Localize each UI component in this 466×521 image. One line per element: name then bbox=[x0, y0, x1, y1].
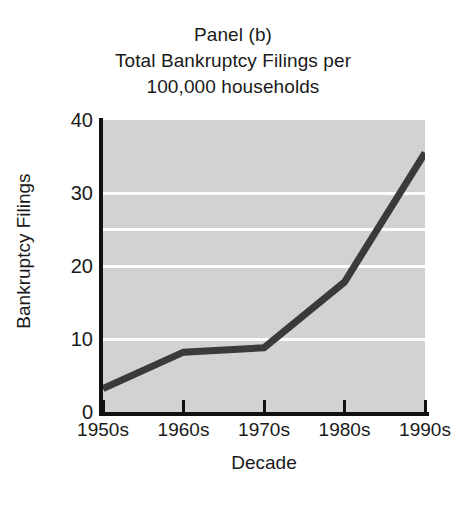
x-tick-1960s bbox=[182, 400, 185, 412]
x-tick-1990s bbox=[424, 400, 427, 412]
y-tick-label-10: 10 bbox=[33, 329, 93, 349]
y-tick-label-30: 30 bbox=[33, 183, 93, 203]
x-tick-1970s bbox=[263, 400, 266, 412]
y-axis-line bbox=[99, 118, 103, 416]
x-tick-label-1970s: 1970s bbox=[219, 419, 309, 441]
x-tick-1980s bbox=[343, 400, 346, 412]
y-tick-label-20: 20 bbox=[33, 256, 93, 276]
plot-area bbox=[103, 120, 425, 412]
y-tick-label-40: 40 bbox=[33, 110, 93, 130]
x-tick-label-1960s: 1960s bbox=[139, 419, 229, 441]
x-tick-label-1980s: 1980s bbox=[300, 419, 390, 441]
x-tick-label-1950s: 1950s bbox=[58, 419, 148, 441]
x-tick-1950s bbox=[102, 400, 105, 412]
data-series-line bbox=[103, 120, 425, 412]
y-axis-tick-labels: 010203040 bbox=[27, 0, 93, 521]
x-axis-line bbox=[99, 412, 429, 416]
chart-figure: Panel (b) Total Bankruptcy Filings per 1… bbox=[0, 0, 466, 521]
y-axis-title: Bankruptcy Filings bbox=[13, 131, 35, 371]
x-tick-label-1990s: 1990s bbox=[380, 419, 466, 441]
x-axis-title: Decade bbox=[103, 452, 425, 474]
